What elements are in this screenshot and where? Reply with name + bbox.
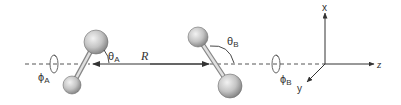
x-axis-label: x <box>322 2 327 13</box>
molecule-b-atom-upper <box>188 27 208 47</box>
y-axis-label: y <box>297 83 302 94</box>
coordinate-axes <box>307 13 374 82</box>
distance-r-label: R <box>140 49 149 63</box>
theta-a-label: θA <box>108 50 120 64</box>
z-axis-label: z <box>376 58 382 70</box>
theta-b-label: θB <box>227 35 238 49</box>
molecule-b-atom-lower <box>218 74 242 98</box>
y-axis <box>307 64 325 82</box>
molecule-a <box>63 30 108 94</box>
phi-b-label: ϕB <box>280 73 292 87</box>
diagram-canvas: θA R θB ϕA ϕB x z y <box>0 0 401 105</box>
molecule-diagram: θA R θB ϕA ϕB x z y <box>0 0 401 105</box>
molecule-a-atom-lower <box>63 76 81 94</box>
phi-a-label: ϕA <box>38 71 50 85</box>
